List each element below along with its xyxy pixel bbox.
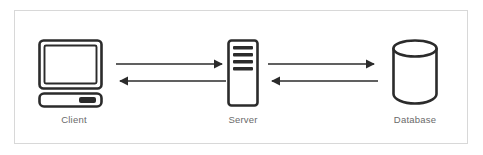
connector-server-database [264, 55, 382, 95]
database-cylinder-icon [378, 38, 452, 108]
node-database-label: Database [394, 114, 436, 126]
diagram-canvas: Client Server Database [0, 0, 483, 155]
node-server-label: Server [228, 114, 257, 126]
desktop-computer-icon [36, 38, 112, 108]
node-client[interactable]: Client [36, 38, 112, 126]
node-client-label: Client [61, 114, 87, 126]
connector-client-server [112, 55, 230, 95]
node-database[interactable]: Database [378, 38, 452, 126]
